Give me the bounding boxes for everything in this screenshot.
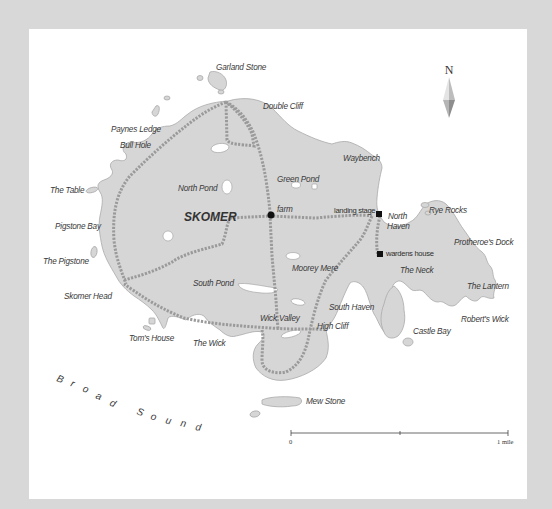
label-skomer-head: Skomer Head	[64, 292, 113, 301]
moorey-mere-pond	[286, 253, 300, 260]
landing-stage-marker	[376, 211, 382, 217]
wardens-house-marker	[377, 251, 383, 257]
label-castle-bay: Castle Bay	[413, 327, 452, 336]
garland-stone-island	[208, 71, 227, 90]
rye-rocks-a	[421, 203, 429, 208]
islet-nw-b	[152, 106, 159, 117]
broad-sound-letter: d	[195, 421, 203, 433]
label-north-haven-2: Haven	[387, 222, 410, 231]
islet-garland-a	[197, 76, 203, 81]
label-broad-sound: BroadSound	[55, 373, 202, 433]
broad-sound-letter: a	[94, 390, 104, 402]
label-the-neck: The Neck	[400, 266, 435, 275]
broad-sound-letter: o	[149, 410, 158, 422]
label-garland-stone: Garland Stone	[216, 63, 267, 72]
castle-bay-islet	[403, 338, 413, 346]
label-mew-stone: Mew Stone	[306, 397, 346, 406]
label-the-table: The Table	[50, 186, 85, 195]
broad-sound-letter: B	[55, 373, 65, 386]
scale-end: 1 mile	[497, 438, 514, 445]
scale-bar: 0 1 mile	[289, 430, 514, 445]
broad-sound-letter: n	[180, 417, 188, 429]
broad-sound-letter: o	[81, 383, 91, 395]
north-arrow: N	[443, 63, 455, 118]
label-double-cliff: Double Cliff	[263, 102, 304, 111]
broad-sound-letter: r	[69, 378, 77, 390]
label-moorey-mere: Moorey Mere	[292, 264, 339, 273]
label-the-pigstone: The Pigstone	[43, 257, 89, 266]
label-high-cliff: High Cliff	[317, 322, 349, 331]
broad-sound-letter: d	[108, 397, 118, 410]
label-landing-stage: landing stage	[334, 206, 375, 215]
label-rye-rocks: Rye Rocks	[429, 206, 467, 215]
north-label: N	[445, 63, 454, 77]
the-table-islet	[86, 186, 99, 194]
north-pond	[222, 180, 232, 194]
label-wick-valley: Wick Valley	[260, 314, 301, 323]
label-wardens-house: wardens house	[385, 249, 434, 258]
label-south-pond: South Pond	[193, 279, 234, 288]
label-pigstone-bay: Pigstone Bay	[55, 222, 102, 231]
label-farm: farm	[277, 205, 293, 214]
islet-nw-a	[164, 96, 170, 100]
green-pond-b	[312, 184, 317, 189]
label-roberts-wick: Robert's Wick	[461, 315, 510, 324]
scale-start: 0	[289, 438, 292, 445]
label-toms-house: Tom's House	[129, 334, 175, 343]
toms-house-islet-b	[143, 325, 152, 331]
label-the-wick: The Wick	[193, 339, 227, 348]
islet-garland-b	[218, 90, 224, 94]
label-north-pond: North Pond	[178, 184, 218, 193]
label-the-lantern: The Lantern	[467, 282, 510, 291]
skomer-map: Garland Stone Double Cliff Paynes Ledge …	[0, 0, 552, 509]
label-north-haven-1: North	[388, 212, 408, 221]
label-protheroes-dock: Protheroe's Dock	[454, 238, 514, 247]
mew-stone-island	[262, 397, 302, 407]
toms-house-islet-a	[149, 318, 155, 324]
broad-sound-letter: S	[135, 406, 145, 419]
broad-sound-letter: u	[164, 414, 173, 426]
label-paynes-ledge: Paynes Ledge	[111, 125, 162, 134]
island-title: SKOMER	[184, 210, 237, 224]
the-pigstone-islet	[90, 246, 98, 258]
label-waybench: Waybench	[343, 154, 381, 163]
farm-marker	[268, 212, 275, 219]
label-south-haven: South Haven	[329, 303, 375, 312]
label-bull-hole: Bull Hole	[120, 141, 152, 150]
mew-stone-islet	[249, 410, 260, 418]
west-pond	[163, 231, 173, 241]
label-green-pond: Green Pond	[277, 175, 320, 184]
